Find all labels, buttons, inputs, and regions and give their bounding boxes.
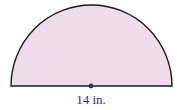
diameter-label: 14 in. xyxy=(0,92,177,108)
center-point xyxy=(89,84,94,89)
semicircle-shape xyxy=(11,5,172,86)
